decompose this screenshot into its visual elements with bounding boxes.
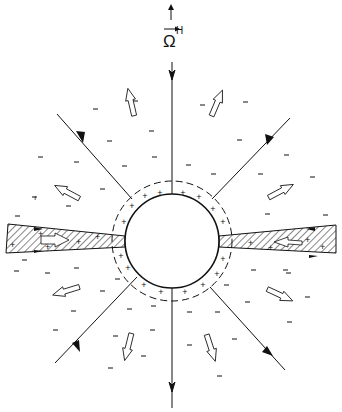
magnetosphere-diagram: + + + + + + + + + ++ ++ ++ ++ ++ ++ ++ +… [0,0,342,412]
svg-text:+: + [220,217,225,227]
svg-text:+: + [95,232,100,242]
small-mark: ı [34,193,36,202]
rotation-axis-arrow-icon [168,4,174,20]
central-body [125,194,219,288]
svg-text:+: + [121,217,126,227]
svg-text:+: + [220,254,225,264]
svg-text:+: + [200,280,205,290]
svg-text:+: + [305,235,310,245]
svg-text:+: + [76,237,81,247]
svg-text:+: + [248,238,253,248]
svg-text:+: + [320,242,325,252]
svg-text:+: + [196,192,201,202]
svg-text:ı: ı [34,193,36,202]
svg-text:+: + [129,201,134,211]
svg-text:+: + [157,188,162,198]
svg-text:+: + [268,243,273,253]
svg-text:+: + [214,269,219,279]
svg-text:+: + [141,280,146,290]
field-line-lower-right [210,287,285,370]
right-disk: + + + + [219,225,336,258]
field-line-upper-right [212,118,290,199]
svg-text:+: + [142,191,147,201]
svg-text:+: + [180,188,185,198]
svg-text:+: + [10,240,15,250]
left-disk: + + + + + [6,224,125,253]
svg-text:+: + [125,263,130,273]
svg-text:+: + [182,287,187,297]
svg-text:+: + [158,287,163,297]
omega-superscript: H [176,25,183,36]
svg-text:+: + [210,204,215,214]
svg-text:+: + [118,251,123,261]
omega-label: Ω [163,32,176,52]
field-line-upper-left [57,114,132,199]
